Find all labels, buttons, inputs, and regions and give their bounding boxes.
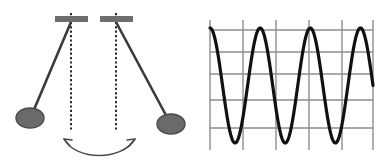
swing-arrow-curve bbox=[64, 139, 135, 156]
right-pivot-bar bbox=[100, 16, 133, 22]
plumb-lines-group bbox=[71, 13, 116, 131]
pendulum-panel bbox=[0, 0, 193, 168]
right-bob bbox=[157, 114, 185, 134]
wave-chart-panel bbox=[193, 0, 386, 168]
figure-root bbox=[0, 0, 386, 168]
wave-curve bbox=[210, 28, 373, 143]
left-bob bbox=[16, 108, 44, 128]
left-pivot-bar bbox=[55, 16, 88, 22]
pivot-bars-group bbox=[55, 16, 133, 22]
right-rod bbox=[116, 22, 168, 119]
left-rod bbox=[33, 22, 71, 112]
pendulum-svg bbox=[0, 0, 193, 168]
swing-arrow-group bbox=[64, 139, 135, 156]
pendulum-rods-group bbox=[33, 22, 168, 119]
pendulum-bobs-group bbox=[16, 108, 185, 134]
wave-chart-svg bbox=[193, 0, 386, 168]
